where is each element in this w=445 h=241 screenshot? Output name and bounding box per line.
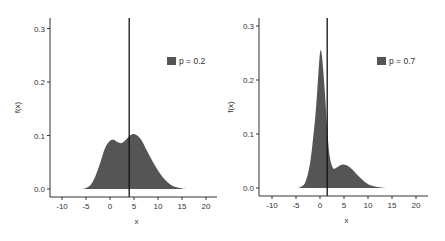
x-axis-title: x bbox=[135, 217, 139, 226]
y-axis-ticks: 0.00.10.20.3 bbox=[243, 22, 259, 193]
x-axis-ticks: -10-505101520 bbox=[266, 196, 421, 210]
density-area-p02 bbox=[81, 134, 187, 189]
y-tick-label: 0.3 bbox=[243, 22, 255, 31]
x-tick-label: 10 bbox=[364, 201, 373, 210]
x-tick-label: 15 bbox=[388, 201, 397, 210]
x-axis-title: x bbox=[345, 216, 349, 225]
x-tick-label: 20 bbox=[412, 201, 421, 210]
x-axis-ticks: -10-505101520 bbox=[56, 197, 211, 211]
x-tick-label: 15 bbox=[178, 202, 187, 211]
x-tick-label: -5 bbox=[292, 201, 300, 210]
y-tick-label: 0.1 bbox=[34, 132, 46, 141]
x-tick-label: 5 bbox=[132, 202, 137, 211]
x-tick-label: 0 bbox=[108, 202, 113, 211]
y-axis-ticks: 0.00.10.20.3 bbox=[34, 25, 50, 195]
density-chart-figure: 0.00.10.20.3 -10-505101520 x f(x) p = 0.… bbox=[0, 0, 445, 241]
x-tick-label: 10 bbox=[154, 202, 163, 211]
y-tick-label: 0.3 bbox=[34, 25, 46, 34]
right-density-panel: 0.00.10.20.3 -10-505101520 x f(x) p = 0.… bbox=[226, 18, 428, 225]
left-density-panel: 0.00.10.20.3 -10-505101520 x f(x) p = 0.… bbox=[13, 18, 217, 226]
y-tick-label: 0.2 bbox=[34, 78, 46, 87]
x-tick-label: 20 bbox=[202, 202, 211, 211]
x-tick-label: -10 bbox=[56, 202, 68, 211]
x-tick-label: 0 bbox=[318, 201, 323, 210]
x-tick-label: 5 bbox=[342, 201, 347, 210]
legend-label: p = 0.2 bbox=[179, 56, 206, 66]
x-tick-label: -10 bbox=[266, 201, 278, 210]
density-area-p07 bbox=[296, 50, 387, 188]
legend-swatch bbox=[377, 57, 386, 65]
y-tick-label: 0.0 bbox=[34, 185, 46, 194]
y-tick-label: 0.2 bbox=[243, 76, 255, 85]
y-axis-title: f(x) bbox=[13, 101, 22, 113]
y-tick-label: 0.0 bbox=[243, 184, 255, 193]
legend-swatch bbox=[167, 57, 176, 65]
x-tick-label: -5 bbox=[82, 202, 90, 211]
legend-label: p = 0.7 bbox=[389, 56, 416, 66]
y-tick-label: 0.1 bbox=[243, 130, 255, 139]
y-axis-title: f(x) bbox=[226, 101, 235, 113]
